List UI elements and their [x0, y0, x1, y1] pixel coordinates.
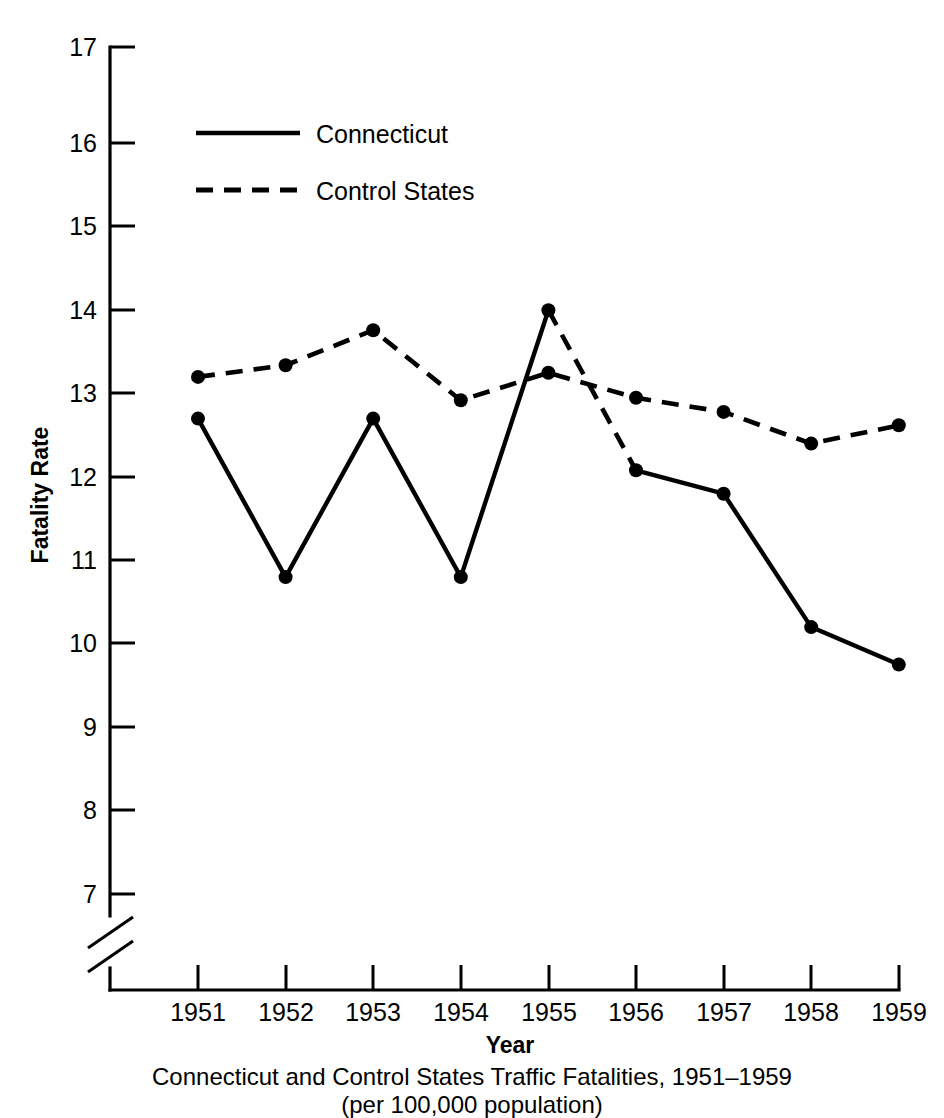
series-line-connecticut-dashed-segment — [548, 310, 636, 470]
data-point-connecticut-1956 — [629, 463, 643, 477]
data-point-control-states-1957 — [717, 405, 731, 419]
y-tick-label: 8 — [83, 796, 97, 824]
data-point-control-states-1952 — [279, 358, 293, 372]
x-tick-label: 1956 — [608, 998, 664, 1026]
y-tick-label: 11 — [71, 546, 97, 574]
figure-caption: Connecticut and Control States Traffic F… — [152, 1063, 792, 1118]
data-point-connecticut-1959 — [892, 658, 906, 672]
y-tick-label: 16 — [69, 129, 97, 157]
caption-title: Connecticut and Control States Traffic F… — [152, 1063, 792, 1090]
data-point-control-states-1951 — [191, 370, 205, 384]
data-point-connecticut-1958 — [804, 620, 818, 634]
legend-label-connecticut: Connecticut — [316, 120, 448, 148]
y-tick-label: 13 — [69, 379, 97, 407]
data-point-control-states-1959 — [892, 418, 906, 432]
data-point-connecticut-1952 — [279, 570, 293, 584]
chart-legend: Connecticut Control States — [196, 120, 474, 205]
data-markers-control-states — [191, 323, 906, 450]
x-tick-label: 1954 — [433, 998, 489, 1026]
x-tick-label: 1951 — [170, 998, 226, 1026]
fatality-rate-line-chart: 17 16 15 14 13 12 11 10 9 8 7 Fatality R… — [0, 0, 944, 1118]
x-tick-label: 1955 — [521, 998, 577, 1026]
series-line-connecticut — [198, 310, 899, 664]
axis-break-icon — [88, 917, 133, 972]
x-tick-label: 1953 — [345, 998, 401, 1026]
data-point-control-states-1953 — [366, 323, 380, 337]
data-point-connecticut-1954 — [454, 570, 468, 584]
x-axis-title: Year — [486, 1032, 535, 1058]
x-tick-label: 1958 — [783, 998, 839, 1026]
x-tick-marks — [198, 965, 899, 990]
caption-subtitle: (per 100,000 population) — [341, 1091, 603, 1118]
y-axis-title: Fatality Rate — [27, 427, 53, 564]
data-point-control-states-1958 — [804, 437, 818, 451]
data-point-control-states-1956 — [629, 391, 643, 405]
y-tick-label: 14 — [69, 296, 97, 324]
y-tick-marks — [110, 47, 135, 894]
y-axis: 17 16 15 14 13 12 11 10 9 8 7 Fatality R… — [27, 33, 135, 990]
y-tick-label: 7 — [83, 880, 97, 908]
chart-figure: 17 16 15 14 13 12 11 10 9 8 7 Fatality R… — [0, 0, 944, 1118]
data-point-connecticut-1957 — [717, 487, 731, 501]
data-series-group — [191, 303, 906, 671]
y-tick-label: 15 — [69, 212, 97, 240]
data-point-connecticut-1955 — [541, 303, 555, 317]
y-tick-label: 17 — [69, 33, 97, 61]
data-point-connecticut-1951 — [191, 412, 205, 426]
y-tick-label: 9 — [83, 713, 97, 741]
x-tick-label: 1959 — [871, 998, 927, 1026]
y-tick-label: 10 — [69, 629, 97, 657]
data-markers-connecticut — [191, 303, 906, 671]
x-axis: 1951 1952 1953 1954 1955 1956 1957 1958 … — [110, 965, 927, 1058]
x-tick-label: 1957 — [696, 998, 752, 1026]
y-tick-label: 12 — [69, 463, 97, 491]
data-point-control-states-1955 — [541, 366, 555, 380]
data-point-control-states-1954 — [454, 393, 468, 407]
series-line-control-states — [198, 330, 899, 443]
x-tick-label: 1952 — [258, 998, 314, 1026]
legend-label-control-states: Control States — [316, 177, 474, 205]
data-point-connecticut-1953 — [366, 412, 380, 426]
